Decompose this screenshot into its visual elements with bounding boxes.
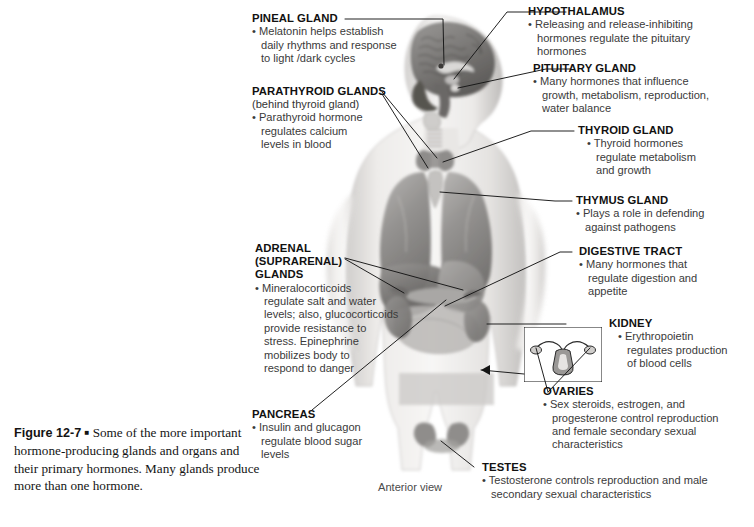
callout-pancreas: PANCREAS • Insulin and glucagon regulate… xyxy=(252,408,362,461)
callout-pineal-gland: PINEAL GLAND • Melatonin helps establish… xyxy=(252,12,397,65)
callout-digestive-tract-line-1: regulate digestion and xyxy=(579,272,697,285)
leader-digestive xyxy=(445,252,572,306)
callout-adrenal-glands: ADRENAL (SUPRARENAL) GLANDS • Mineraloco… xyxy=(255,242,398,375)
callout-thyroid-gland-line-0: • Thyroid hormones xyxy=(578,137,696,150)
callout-pancreas-heading: PANCREAS xyxy=(252,408,362,421)
callout-thymus-gland-line-0: • Plays a role in defending xyxy=(576,207,704,220)
callout-thymus-gland-line-1: against pathogens xyxy=(576,221,704,234)
callout-digestive-tract-heading: DIGESTIVE TRACT xyxy=(579,245,697,258)
callout-testes-line-0: • Testosterone controls reproduction and… xyxy=(482,474,708,487)
callout-adrenal-glands-line-6: respond to danger xyxy=(255,362,398,375)
callout-thyroid-gland-line-1: regulate metabolism xyxy=(578,151,696,164)
callout-pituitary-gland-line-0: • Many hormones that influence xyxy=(533,75,709,88)
callout-testes: TESTES • Testosterone controls reproduct… xyxy=(482,461,708,501)
callout-pineal-gland-heading: PINEAL GLAND xyxy=(252,12,397,25)
callout-adrenal-glands-line-3: provide resistance to xyxy=(255,322,398,335)
callout-pituitary-gland-line-2: water balance xyxy=(533,102,709,115)
figure-number: Figure 12-7 xyxy=(14,426,81,440)
callout-ovaries: OVARIES • Sex steroids, estrogen, and pr… xyxy=(543,385,719,452)
callout-pituitary-gland-heading: PITUITARY GLAND xyxy=(533,62,709,75)
callout-hypothalamus: HYPOTHALAMUS • Releasing and release-inh… xyxy=(528,5,693,58)
callout-adrenal-glands-line-5: mobilizes body to xyxy=(255,349,398,362)
callout-pancreas-line-0: • Insulin and glucagon xyxy=(252,421,362,434)
callout-pancreas-line-1: regulate blood sugar xyxy=(252,435,362,448)
callout-kidney-line-0: • Erythropoietin xyxy=(609,330,728,343)
callout-pineal-gland-line-2: to light /dark cycles xyxy=(252,52,397,65)
figure-marker-icon: ■ xyxy=(84,428,89,437)
callout-digestive-tract-line-2: appetite xyxy=(579,285,697,298)
callout-thyroid-gland: THYROID GLAND • Thyroid hormones regulat… xyxy=(578,124,696,177)
callout-adrenal-glands-line-4: stress. Epinephrine xyxy=(255,335,398,348)
callout-thymus-gland: THYMUS GLAND • Plays a role in defending… xyxy=(576,194,704,234)
callout-pineal-gland-line-1: daily rhythms and response xyxy=(252,39,397,52)
callout-ovaries-heading: OVARIES xyxy=(543,385,719,398)
callout-parathyroid-glands-subheading: (behind thyroid gland) xyxy=(252,98,386,111)
callout-hypothalamus-line-2: hormones xyxy=(528,45,693,58)
callout-ovaries-line-2: and female secondary sexual xyxy=(543,425,719,438)
callout-hypothalamus-line-0: • Releasing and release-inhibiting xyxy=(528,18,693,31)
callout-parathyroid-glands: PARATHYROID GLANDS (behind thyroid gland… xyxy=(252,85,386,152)
leader-testes xyxy=(441,441,474,467)
callout-pituitary-gland: PITUITARY GLAND • Many hormones that inf… xyxy=(533,62,709,115)
figure-caption: Figure 12-7 ■ Some of the more important… xyxy=(14,424,264,495)
callout-adrenal-glands-line-2: levels; also, glucocorticoids xyxy=(255,308,398,321)
callout-hypothalamus-line-1: hormones regulate the pituitary xyxy=(528,32,693,45)
anterior-view-label: Anterior view xyxy=(378,481,442,493)
callout-parathyroid-glands-heading: PARATHYROID GLANDS xyxy=(252,85,386,98)
callout-adrenal-glands-heading2: (SUPRARENAL) xyxy=(255,255,398,268)
endocrine-system-figure: PINEAL GLAND • Melatonin helps establish… xyxy=(0,0,754,527)
callout-kidney-line-1: regulates production xyxy=(609,344,728,357)
leader-thyroid xyxy=(443,131,574,162)
callout-kidney-heading: KIDNEY xyxy=(609,317,728,330)
callout-adrenal-glands-line-1: regulate salt and water xyxy=(255,295,398,308)
leader-parathyroid-2 xyxy=(382,94,428,168)
callout-pancreas-line-2: levels xyxy=(252,448,362,461)
callout-parathyroid-glands-line-2: levels in blood xyxy=(252,138,386,151)
callout-kidney: KIDNEY • Erythropoietin regulates produc… xyxy=(609,317,728,370)
callout-pituitary-gland-line-1: growth, metabolism, reproduction, xyxy=(533,89,709,102)
leader-parathyroid-1 xyxy=(382,92,437,158)
callout-thyroid-gland-line-2: and growth xyxy=(578,164,696,177)
callout-ovaries-line-0: • Sex steroids, estrogen, and xyxy=(543,398,719,411)
leader-arrowheads xyxy=(481,365,490,375)
leader-thymus xyxy=(440,192,572,201)
callout-ovaries-line-3: characteristics xyxy=(543,438,719,451)
callout-parathyroid-glands-line-0: • Parathyroid hormone xyxy=(252,111,386,124)
callout-testes-heading: TESTES xyxy=(482,461,708,474)
callout-parathyroid-glands-line-1: regulates calcium xyxy=(252,125,386,138)
callout-adrenal-glands-line-0: • Mineralocorticoids xyxy=(255,282,398,295)
callout-adrenal-glands-heading3: GLANDS xyxy=(255,268,398,281)
callout-adrenal-glands-heading: ADRENAL xyxy=(255,242,398,255)
callout-thyroid-gland-heading: THYROID GLAND xyxy=(578,124,696,137)
callout-digestive-tract-line-0: • Many hormones that xyxy=(579,258,697,271)
callout-pineal-gland-line-0: • Melatonin helps establish xyxy=(252,25,397,38)
callout-testes-line-1: secondary sexual characteristics xyxy=(482,488,708,501)
callout-digestive-tract: DIGESTIVE TRACT • Many hormones that reg… xyxy=(579,245,697,298)
callout-thymus-gland-heading: THYMUS GLAND xyxy=(576,194,704,207)
figure-caption-text: Some of the more xyxy=(93,425,187,440)
callout-hypothalamus-heading: HYPOTHALAMUS xyxy=(528,5,693,18)
callout-ovaries-line-1: progesterone control reproduction xyxy=(543,412,719,425)
callout-kidney-line-2: of blood cells xyxy=(609,357,728,370)
